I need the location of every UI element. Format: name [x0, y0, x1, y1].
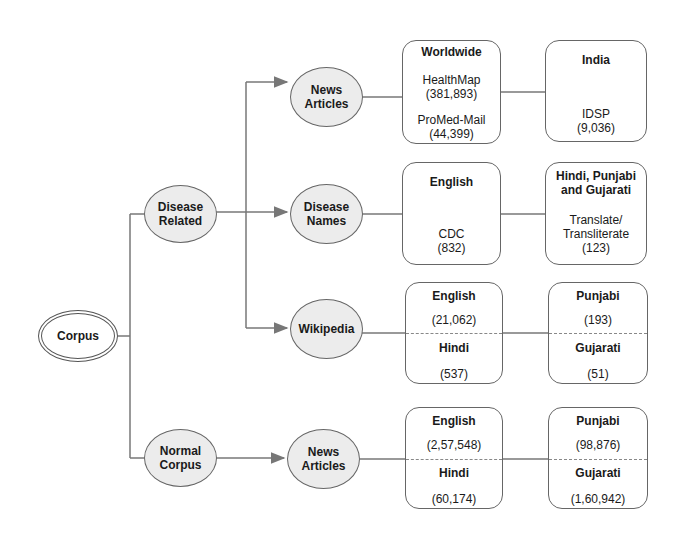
wiki-punjabi-title: Punjabi: [549, 289, 647, 303]
translate-label-1: Translate/: [546, 213, 646, 227]
divider: [549, 459, 647, 460]
english-names-title: English: [403, 175, 500, 189]
wiki-pa-gu-box: Punjabi (193) Gujarati (51): [548, 282, 648, 384]
india-title: India: [546, 53, 646, 67]
normal-news-articles-node: NewsArticles: [287, 429, 360, 489]
promed-count: (44,399): [403, 127, 500, 141]
corpus-node: Corpus: [38, 310, 118, 362]
wiki-hindi-count: (537): [406, 367, 502, 381]
healthmap-label: HealthMap: [403, 73, 500, 87]
wiki-hindi-title: Hindi: [406, 341, 502, 355]
normal-gujarati-title: Gujarati: [549, 466, 647, 480]
indic-names-box: Hindi, Punjabi and Gujarati Translate/ T…: [545, 162, 647, 265]
divider: [549, 333, 647, 334]
promed-label: ProMed-Mail: [403, 113, 500, 127]
divider: [406, 333, 502, 334]
disease-names-node: DiseaseNames: [290, 184, 363, 244]
normal-gujarati-count: (1,60,942): [549, 492, 647, 506]
translate-count: (123): [546, 241, 646, 255]
worldwide-title: Worldwide: [403, 45, 500, 59]
normal-news-label-2: Articles: [301, 459, 345, 473]
disease-names-label-2: Names: [304, 214, 349, 228]
news-articles-label-1: News: [304, 83, 348, 97]
normal-hindi-title: Hindi: [406, 466, 502, 480]
news-articles-node: NewsArticles: [290, 67, 363, 127]
idsp-count: (9,036): [546, 121, 646, 135]
normal-corpus-label-2: Corpus: [160, 458, 202, 472]
indic-names-title-2: and Gujarati: [546, 183, 646, 197]
india-box: India IDSP (9,036): [545, 40, 647, 142]
indic-names-title-1: Hindi, Punjabi: [546, 169, 646, 183]
normal-news-label-1: News: [301, 445, 345, 459]
disease-related-label-2: Related: [158, 214, 203, 228]
worldwide-box: Worldwide HealthMap (381,893) ProMed-Mai…: [402, 40, 501, 144]
normal-punjabi-title: Punjabi: [549, 414, 647, 428]
disease-related-node: DiseaseRelated: [144, 185, 217, 243]
disease-names-label-1: Disease: [304, 200, 349, 214]
english-names-box: English CDC (832): [402, 162, 501, 265]
normal-pa-gu-box: Punjabi (98,876) Gujarati (1,60,942): [548, 407, 648, 509]
normal-corpus-node: NormalCorpus: [144, 429, 217, 487]
wikipedia-label: Wikipedia: [299, 322, 355, 336]
divider: [406, 459, 502, 460]
cdc-label: CDC: [403, 227, 500, 241]
normal-english-count: (2,57,548): [406, 438, 502, 452]
normal-en-hi-box: English (2,57,548) Hindi (60,174): [405, 407, 503, 509]
cdc-count: (832): [403, 241, 500, 255]
wiki-gujarati-title: Gujarati: [549, 341, 647, 355]
idsp-label: IDSP: [546, 107, 646, 121]
normal-english-title: English: [406, 414, 502, 428]
normal-hindi-count: (60,174): [406, 492, 502, 506]
normal-corpus-label-1: Normal: [160, 444, 202, 458]
wiki-english-title: English: [406, 289, 502, 303]
disease-related-label-1: Disease: [158, 200, 203, 214]
corpus-label: Corpus: [57, 329, 99, 343]
translate-label-2: Transliterate: [546, 227, 646, 241]
wiki-english-count: (21,062): [406, 313, 502, 327]
wiki-gujarati-count: (51): [549, 367, 647, 381]
healthmap-count: (381,893): [403, 87, 500, 101]
normal-punjabi-count: (98,876): [549, 438, 647, 452]
wiki-punjabi-count: (193): [549, 313, 647, 327]
news-articles-label-2: Articles: [304, 97, 348, 111]
wikipedia-node: Wikipedia: [290, 299, 363, 359]
wiki-en-hi-box: English (21,062) Hindi (537): [405, 282, 503, 384]
